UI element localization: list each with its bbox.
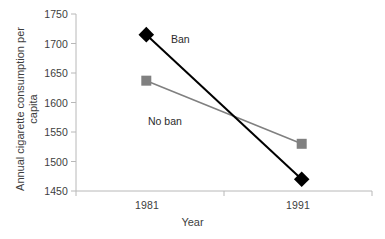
y-axis-title: Annual cigarette consumption per capita xyxy=(14,19,40,199)
chart-container: 1450 1500 1550 1600 1650 1700 1750 1981 … xyxy=(0,0,385,239)
no-ban-marker-1981 xyxy=(141,76,151,86)
x-tick-label-1981: 1981 xyxy=(126,199,168,211)
no-ban-line xyxy=(146,81,301,144)
y-axis-ticks xyxy=(71,14,76,191)
x-tick-label-1991: 1991 xyxy=(277,199,319,211)
ban-line xyxy=(146,35,301,180)
x-axis-ticks xyxy=(76,191,372,196)
no-ban-marker-1991 xyxy=(297,139,307,149)
series-ban xyxy=(139,27,310,187)
series-no-ban xyxy=(141,76,306,149)
x-axis-title: Year xyxy=(0,216,385,228)
chart-plot-area xyxy=(0,0,385,239)
series-annotation-ban: Ban xyxy=(171,33,190,45)
series-annotation-no-ban: No ban xyxy=(148,115,182,127)
